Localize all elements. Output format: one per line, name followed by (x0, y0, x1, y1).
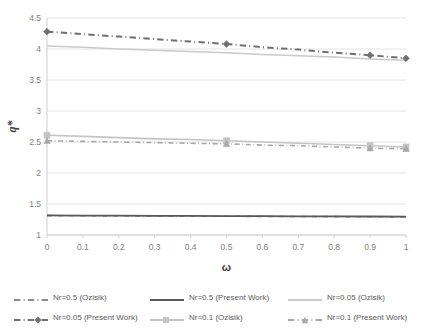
y-axis-tick-label: 3.5 (29, 75, 41, 85)
legend-item[interactable]: Nr=0.1 (Ozisik) (150, 312, 243, 324)
chart-plot-area: 11.522.533.544.500.10.20.30.40.50.60.70.… (0, 0, 421, 334)
legend-item-label: Nr=0.1 (Ozisik) (189, 312, 243, 324)
legend-item-label: Nr=0.5 (Present Work) (189, 292, 269, 304)
legend-swatch (150, 292, 184, 304)
x-axis-tick-label: 0.3 (149, 242, 161, 252)
x-axis-tick-label: 0 (45, 242, 50, 252)
chart-container: 11.522.533.544.500.10.20.30.40.50.60.70.… (0, 0, 421, 334)
y-axis-tick-label: 4 (36, 44, 41, 54)
data-point-marker-diamond (367, 52, 374, 59)
legend-item[interactable]: Nr=0.5 (Present Work) (150, 292, 269, 304)
legend-swatch (14, 312, 48, 324)
legend-item-label: Nr=0.1 (Present Work) (327, 312, 407, 324)
x-axis-tick-label: 0.5 (221, 242, 233, 252)
y-axis-tick-label: 1 (36, 230, 41, 240)
data-point-marker-diamond (44, 28, 51, 35)
legend-swatch (14, 292, 48, 304)
legend-marker-diamond (35, 316, 42, 323)
x-axis-tick-label: 0.1 (77, 242, 89, 252)
y-axis-tick-label: 2 (36, 168, 41, 178)
legend-item-label: Nr=0.05 (Ozisik) (327, 292, 385, 304)
x-axis-tick-label: 0.2 (113, 242, 125, 252)
x-axis-tick-label: 0.8 (328, 242, 340, 252)
legend-item[interactable]: Nr=0.05 (Present Work) (14, 312, 138, 324)
legend-item-label: Nr=0.05 (Present Work) (53, 312, 138, 324)
x-axis-tick-label: 0.7 (292, 242, 304, 252)
legend-item-label: Nr=0.5 (Ozisik) (53, 292, 107, 304)
x-axis-tick-label: 1 (404, 242, 409, 252)
legend-swatch (288, 292, 322, 304)
x-axis-tick-label: 0.4 (185, 242, 197, 252)
y-axis-tick-label: 3 (36, 106, 41, 116)
series-line (47, 215, 406, 216)
y-axis-title: q* (5, 120, 19, 133)
legend-marker-square (163, 317, 169, 323)
x-axis-title: ω (222, 261, 231, 273)
legend-swatch (150, 312, 184, 324)
y-axis-tick-label: 1.5 (29, 199, 41, 209)
y-axis-tick-label: 2.5 (29, 137, 41, 147)
legend-item[interactable]: Nr=0.05 (Ozisik) (288, 292, 385, 304)
x-axis-tick-label: 0.9 (364, 242, 376, 252)
data-point-marker-diamond (223, 41, 230, 48)
legend-item[interactable]: Nr=0.5 (Ozisik) (14, 292, 107, 304)
legend-swatch (288, 312, 322, 324)
legend-item[interactable]: Nr=0.1 (Present Work) (288, 312, 407, 324)
y-axis-tick-label: 4.5 (29, 13, 41, 23)
x-axis-tick-label: 0.6 (256, 242, 268, 252)
